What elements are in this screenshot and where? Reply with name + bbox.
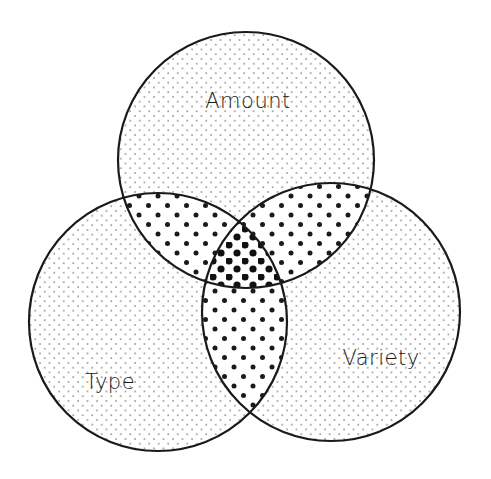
venn-diagram: Amount Type Variety xyxy=(0,0,491,479)
variety-label: Variety xyxy=(342,346,419,370)
amount-label: Amount xyxy=(205,89,291,113)
type-label: Type xyxy=(85,370,135,394)
